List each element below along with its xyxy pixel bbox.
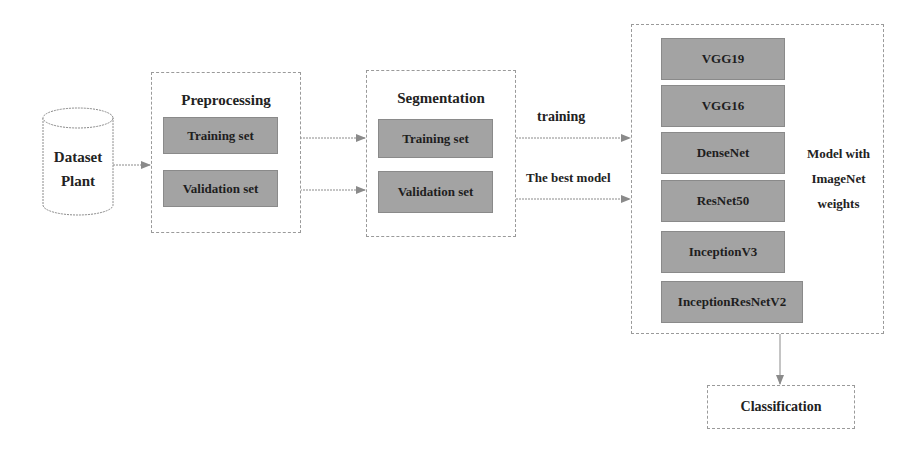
preprocessing-box: Preprocessing Training set Validation se… (151, 72, 301, 233)
model-densenet: DenseNet (661, 132, 785, 174)
preprocessing-validation-set: Validation set (163, 170, 278, 207)
segmentation-training-set: Training set (378, 119, 493, 158)
models-caption-line3: weights (796, 191, 881, 216)
segmentation-title: Segmentation (367, 90, 515, 107)
segmentation-validation-set: Validation set (378, 171, 493, 213)
edge-label-best-model: The best model (526, 170, 611, 186)
dataset-node: Dataset Plant (43, 145, 113, 193)
model-vgg19: VGG19 (661, 38, 785, 80)
model-resnet50: ResNet50 (661, 180, 785, 222)
dataset-label-line1: Dataset (43, 145, 113, 169)
models-caption-line1: Model with (796, 141, 881, 166)
model-inceptionv3: InceptionV3 (661, 231, 785, 273)
edge-label-training: training (537, 109, 585, 125)
dataset-label-line2: Plant (43, 169, 113, 193)
preprocessing-title: Preprocessing (152, 92, 300, 109)
classification-label: Classification (741, 399, 822, 415)
models-caption: Model with ImageNet weights (796, 141, 881, 216)
model-inceptionresnetv2: InceptionResNetV2 (661, 281, 803, 323)
model-vgg16: VGG16 (661, 85, 785, 127)
classification-box: Classification (707, 385, 855, 429)
preprocessing-training-set: Training set (163, 117, 278, 154)
models-box: VGG19 VGG16 DenseNet ResNet50 InceptionV… (631, 24, 884, 334)
segmentation-box: Segmentation Training set Validation set (366, 70, 516, 237)
models-caption-line2: ImageNet (796, 166, 881, 191)
